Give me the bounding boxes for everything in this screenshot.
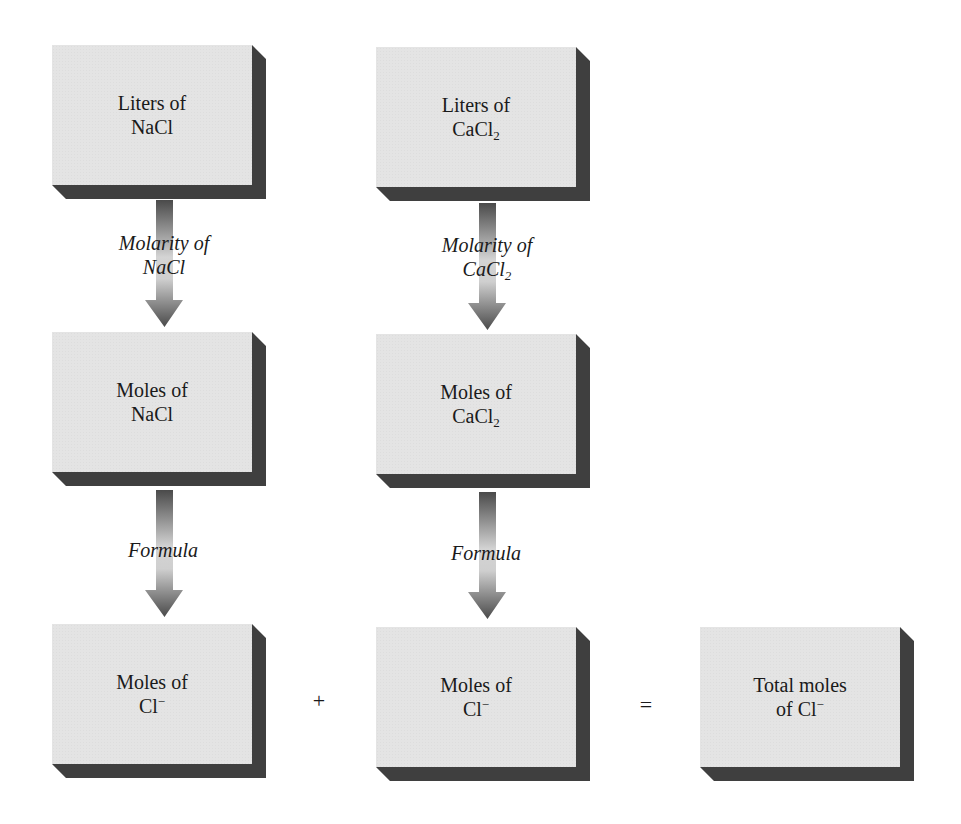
box-face: Total moles of Cl− (700, 627, 900, 767)
box-face: Liters of CaCl2 (376, 47, 576, 187)
arrow-label-formula-cacl2: Formula (451, 541, 521, 565)
arrow-label-molarity-cacl2: Molarity of CaCl2 (442, 233, 533, 281)
box-liters-cacl2: Liters of CaCl2 (376, 47, 576, 187)
box-label-line2: CaCl2 (452, 404, 500, 428)
plus-operator: + (313, 690, 325, 712)
box-face: Moles of Cl− (52, 624, 252, 764)
box-moles-cacl2: Moles of CaCl2 (376, 334, 576, 474)
box-label-line2: Cl− (139, 694, 165, 718)
box-label-line1: Liters of (118, 91, 186, 115)
box-label-line1: Moles of (116, 378, 188, 402)
arrow-label-formula-nacl: Formula (128, 538, 198, 562)
box-face: Moles of Cl− (376, 627, 576, 767)
box-moles-nacl: Moles of NaCl (52, 332, 252, 472)
box-label-line2: NaCl (131, 402, 173, 426)
arrow-label-molarity-nacl: Molarity of NaCl (119, 231, 210, 279)
box-label-line2: CaCl2 (452, 117, 500, 141)
box-label-line1: Moles of (440, 673, 512, 697)
box-face: Moles of NaCl (52, 332, 252, 472)
box-label-line1: Moles of (116, 670, 188, 694)
box-label-line2: NaCl (131, 115, 173, 139)
box-label-line1: Liters of (442, 93, 510, 117)
box-label-line1: Total moles (753, 673, 847, 697)
box-label-line2: of Cl− (776, 697, 824, 721)
box-liters-nacl: Liters of NaCl (52, 45, 252, 185)
box-label-line2: Cl− (463, 697, 489, 721)
equals-operator: = (640, 694, 652, 716)
box-moles-cl-right: Moles of Cl− (376, 627, 576, 767)
box-face: Liters of NaCl (52, 45, 252, 185)
box-moles-cl-left: Moles of Cl− (52, 624, 252, 764)
box-total-moles-cl: Total moles of Cl− (700, 627, 900, 767)
box-label-line1: Moles of (440, 380, 512, 404)
box-face: Moles of CaCl2 (376, 334, 576, 474)
